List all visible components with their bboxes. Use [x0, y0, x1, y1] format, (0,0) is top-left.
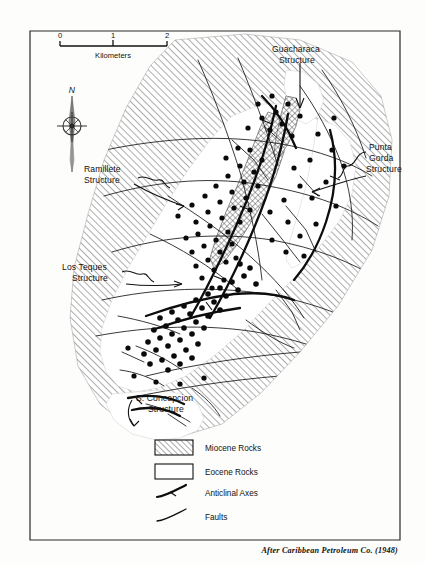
structure-label-guacharaca: Guacharaca Structure — [272, 44, 320, 65]
structure-label-los-teques: Los Teques Structure — [62, 262, 108, 283]
legend-label-miocene: Miocene Rocks — [205, 444, 261, 453]
north-arrow-compass: N — [57, 85, 87, 172]
ramillete-line1: Ramillete — [84, 164, 121, 174]
scale-tick-0: 0 — [58, 31, 62, 40]
legend-swatch-anticlinal — [157, 485, 186, 497]
s-concepcion-line1: S. Concepcion — [136, 393, 193, 403]
s-concepcion-line2: Structure — [148, 404, 184, 414]
scale-units-label: Kilometers — [95, 51, 131, 60]
legend-label-eocene: Eocene Rocks — [205, 468, 258, 477]
punta-gorda-line2: Gorda — [369, 153, 394, 163]
guacharaca-line1: Guacharaca — [272, 44, 320, 54]
los-teques-line1: Los Teques — [62, 262, 107, 272]
structure-label-punta-gorda: Punta Gorda Structure — [366, 142, 402, 174]
punta-gorda-line1: Punta — [369, 142, 392, 152]
source-credit: After Caribbean Petroleum Co. (1948) — [260, 546, 398, 555]
legend-swatch-eocene — [155, 464, 193, 479]
map-legend: Miocene Rocks Eocene Rocks Anticlinal Ax… — [155, 440, 261, 522]
legend-swatch-miocene — [155, 440, 193, 455]
geologic-map-figure: Guacharaca Structure Punta Gorda Structu… — [0, 0, 425, 565]
punta-gorda-line3: Structure — [366, 164, 402, 174]
north-label: N — [69, 85, 76, 95]
scale-tick-2: 2 — [165, 31, 169, 40]
legend-label-faults: Faults — [205, 513, 227, 522]
figure-root: Guacharaca Structure Punta Gorda Structu… — [0, 0, 425, 565]
legend-label-anticlinal: Anticlinal Axes — [205, 489, 258, 498]
guacharaca-line2: Structure — [279, 55, 315, 65]
scale-bar: 0 1 2 Kilometers — [58, 31, 169, 60]
structure-label-ramillete: Ramillete Structure — [84, 164, 121, 185]
los-teques-line2: Structure — [72, 273, 108, 283]
ramillete-line2: Structure — [84, 175, 120, 185]
scale-tick-1: 1 — [111, 31, 115, 40]
legend-swatch-faults — [157, 509, 186, 521]
